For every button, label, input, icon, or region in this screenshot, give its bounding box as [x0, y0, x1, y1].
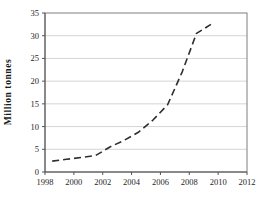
- x-tick-label: 2000: [65, 177, 82, 187]
- y-axis-title: Million tonnes: [3, 59, 13, 126]
- plot-area: 1998200020022004200620082010201205101520…: [31, 8, 256, 187]
- x-tick-label: 1998: [37, 177, 54, 187]
- y-tick-label: 25: [31, 53, 40, 63]
- plot-frame: [45, 13, 247, 172]
- y-tick-label: 20: [31, 76, 40, 86]
- x-tick-label: 2012: [239, 177, 256, 187]
- x-tick-label: 2006: [152, 177, 169, 187]
- chart-container: 1998200020022004200620082010201205101520…: [0, 0, 259, 199]
- y-tick-label: 35: [31, 8, 40, 18]
- y-tick-label: 0: [35, 167, 39, 177]
- x-tick-label: 2010: [210, 177, 227, 187]
- x-tick-label: 2008: [181, 177, 198, 187]
- x-tick-label: 2002: [94, 177, 111, 187]
- y-tick-label: 10: [31, 122, 40, 132]
- y-tick-label: 5: [35, 144, 39, 154]
- x-tick-label: 2004: [123, 177, 141, 187]
- y-tick-label: 30: [31, 31, 40, 41]
- data-line: [52, 24, 211, 161]
- line-chart: 1998200020022004200620082010201205101520…: [0, 0, 259, 199]
- y-tick-label: 15: [31, 99, 40, 109]
